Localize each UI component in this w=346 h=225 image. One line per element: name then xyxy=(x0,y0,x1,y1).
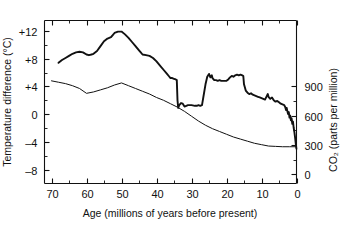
data-series-group xyxy=(52,32,297,149)
x-tick-label: 60 xyxy=(81,188,93,200)
plot-frame xyxy=(45,21,297,184)
axis-tick-labels: 706050403020100+12+8+40–4–89006003000 xyxy=(19,26,323,200)
y2-tick-label: 600 xyxy=(305,111,323,123)
x-tick-label: 10 xyxy=(256,188,268,200)
chart-figure: 706050403020100+12+8+40–4–89006003000 Ag… xyxy=(0,0,346,225)
y-tick-label: +8 xyxy=(25,54,38,66)
series-line-co2 xyxy=(52,81,297,147)
chart-svg: 706050403020100+12+8+40–4–89006003000 Ag… xyxy=(0,0,346,225)
y2-axis-title: CO₂ (parts per million) xyxy=(327,68,339,172)
y2-tick-label: 0 xyxy=(305,169,311,181)
x-tick-label: 40 xyxy=(151,188,163,200)
x-tick-label: 0 xyxy=(294,188,300,200)
y-tick-label: –8 xyxy=(25,165,37,177)
y-tick-label: –4 xyxy=(25,137,37,149)
y-tick-label: 0 xyxy=(31,109,37,121)
y-tick-label: +12 xyxy=(19,26,38,38)
x-tick-label: 50 xyxy=(116,188,128,200)
axis-ticks xyxy=(45,21,298,184)
series-line-temperature xyxy=(59,32,297,149)
y2-tick-label: 900 xyxy=(305,81,323,93)
y-tick-label: +4 xyxy=(25,81,38,93)
x-tick-label: 20 xyxy=(221,188,233,200)
x-tick-label: 70 xyxy=(46,188,58,200)
y2-tick-label: 300 xyxy=(305,140,323,152)
y-axis-title: Temperature difference (°C) xyxy=(1,37,13,166)
x-axis-title: Age (millions of years before present) xyxy=(83,207,258,219)
x-tick-label: 30 xyxy=(186,188,198,200)
